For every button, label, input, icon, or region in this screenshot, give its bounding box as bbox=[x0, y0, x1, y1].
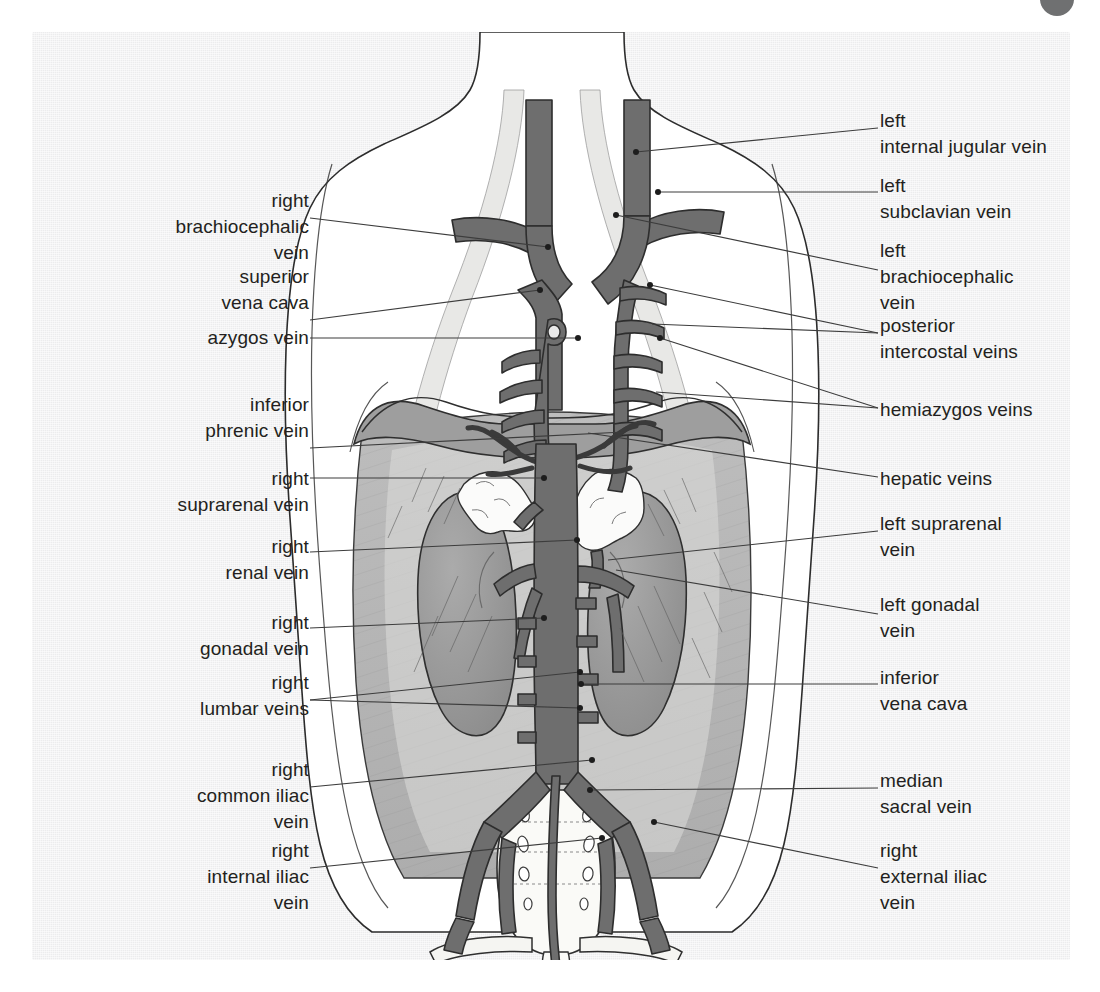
label-posterior-intercostal-veins: posterior intercostal veins bbox=[880, 313, 1018, 365]
vein-left-internal-iliac bbox=[598, 838, 615, 934]
label-right-suprarenal-vein: right suprarenal vein bbox=[64, 466, 309, 518]
label-left-gonadal-vein: left gonadal vein bbox=[880, 592, 979, 644]
figure-page: right brachiocephalic veinsuperior vena … bbox=[0, 0, 1100, 992]
label-right-gonadal-vein: right gonadal vein bbox=[64, 610, 309, 662]
vein-right-internal-iliac bbox=[499, 838, 516, 934]
label-left-brachiocephalic-vein: left brachiocephalic vein bbox=[880, 238, 1014, 316]
figure-artwork bbox=[285, 32, 878, 960]
label-left-suprarenal-vein: left suprarenal vein bbox=[880, 511, 1002, 563]
label-hepatic-veins: hepatic veins bbox=[880, 466, 992, 492]
label-inferior-phrenic-vein: inferior phrenic vein bbox=[64, 392, 309, 444]
vein-left-internal-jugular bbox=[624, 100, 650, 216]
label-right-brachiocephalic-vein: right brachiocephalic vein bbox=[64, 188, 309, 266]
label-azygos-vein: azygos vein bbox=[64, 325, 309, 351]
label-hemiazygos-veins: hemiazygos veins bbox=[880, 397, 1033, 423]
label-right-renal-vein: right renal vein bbox=[64, 534, 309, 586]
label-median-sacral-vein: median sacral vein bbox=[880, 768, 972, 820]
label-right-external-iliac-vein: right external iliac vein bbox=[880, 838, 987, 916]
label-right-lumbar-veins: right lumbar veins bbox=[64, 670, 309, 722]
page-corner-tab-icon bbox=[1040, 0, 1074, 16]
vein-azygos-arch-opening bbox=[548, 325, 560, 339]
label-inferior-vena-cava: inferior vena cava bbox=[880, 665, 968, 717]
label-left-subclavian-vein: left subclavian vein bbox=[880, 173, 1011, 225]
label-right-common-iliac-vein: right common iliac vein bbox=[64, 757, 309, 835]
label-left-internal-jugular-vein: left internal jugular vein bbox=[880, 108, 1047, 160]
vein-inferior-vena-cava bbox=[534, 444, 578, 784]
label-right-internal-iliac-vein: right internal iliac vein bbox=[64, 838, 309, 916]
vein-right-internal-jugular bbox=[526, 100, 552, 226]
label-superior-vena-cava: superior vena cava bbox=[64, 264, 309, 316]
